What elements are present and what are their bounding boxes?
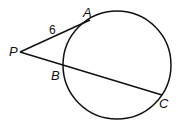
circle	[63, 11, 171, 119]
point-label-c: C	[159, 96, 169, 111]
segment-length-pa: 6	[49, 23, 56, 37]
point-label-p: P	[9, 44, 18, 59]
secant-tangent-diagram: 6 A P B C	[0, 0, 178, 123]
secant-segment-pc	[20, 52, 162, 95]
point-label-a: A	[82, 5, 92, 20]
point-label-b: B	[51, 68, 60, 83]
